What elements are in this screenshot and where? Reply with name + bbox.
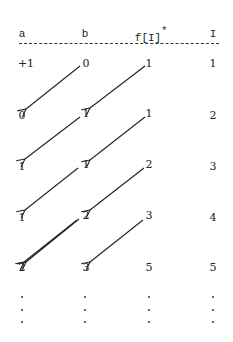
arrow-icon	[26, 219, 79, 262]
arrows	[0, 0, 233, 342]
arrow-icon	[90, 66, 145, 108]
arrow-icon	[24, 220, 77, 262]
arrow-icon	[25, 168, 78, 210]
arrow-icon	[25, 117, 80, 159]
arrow-icon	[90, 117, 145, 160]
arrow-icon	[90, 220, 143, 262]
arrow-icon	[90, 168, 144, 210]
arrow-icon	[26, 66, 80, 109]
